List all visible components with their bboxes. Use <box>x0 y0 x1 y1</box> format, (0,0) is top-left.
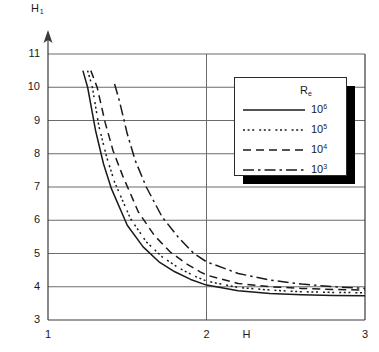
y-axis-title-subscript: 1 <box>40 8 44 15</box>
legend-sample-dotted <box>243 127 309 133</box>
legend-title-base: R <box>300 84 308 96</box>
legend-sample-dash-dot <box>243 167 309 173</box>
x-axis-title: H <box>243 329 251 340</box>
y-tick-label: 8 <box>16 148 40 159</box>
y-tick-label: 3 <box>16 314 40 325</box>
y-tick-label: 11 <box>16 48 40 59</box>
legend-label-mantissa: 10 <box>311 163 323 175</box>
legend-label-exponent: 5 <box>323 123 327 130</box>
legend-label-exponent: 4 <box>323 143 327 150</box>
y-tick-label: 5 <box>16 248 40 259</box>
x-tick-label: 3 <box>355 329 375 340</box>
y-tick-label: 4 <box>16 281 40 292</box>
legend-title: Re <box>300 85 312 97</box>
legend-sample-solid <box>243 107 309 113</box>
legend-title-subscript: e <box>308 90 312 97</box>
legend-label-exponent: 6 <box>323 103 327 110</box>
y-tick-label: 10 <box>16 81 40 92</box>
x-tick-label: 1 <box>38 329 58 340</box>
legend-label-exponent: 3 <box>323 163 327 170</box>
y-axis-title: H1 <box>31 2 43 14</box>
legend-label-mantissa: 10 <box>311 143 323 155</box>
legend-sample-dashed <box>243 147 309 153</box>
legend-label: 104 <box>311 144 327 156</box>
x-tick-label: 2 <box>197 329 217 340</box>
y-tick-label: 9 <box>16 115 40 126</box>
y-tick-label: 7 <box>16 181 40 192</box>
legend-label: 106 <box>311 104 327 116</box>
legend-label: 105 <box>311 124 327 136</box>
legend-label-mantissa: 10 <box>311 123 323 135</box>
y-axis-title-base: H <box>31 2 39 14</box>
legend-box: Re 106105104103 <box>234 77 347 176</box>
y-tick-label: 6 <box>16 214 40 225</box>
legend-label-mantissa: 10 <box>311 103 323 115</box>
legend-label: 103 <box>311 164 327 176</box>
chart-figure: H1 34567891011 123 H Re 106105104103 <box>0 0 379 352</box>
